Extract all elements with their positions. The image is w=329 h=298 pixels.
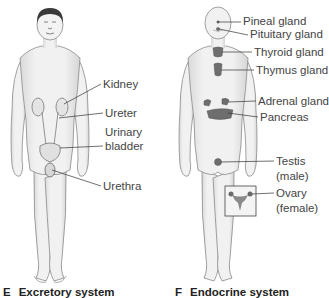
label-thymus-gland: Thymus gland [256, 64, 328, 77]
label-kidney: Kidney [103, 78, 138, 91]
label-pineal-gland: Pineal gland [243, 15, 306, 28]
caption-title: Excretory system [19, 286, 115, 298]
label-pancreas: Pancreas [260, 111, 309, 124]
caption-letter: F [175, 286, 182, 298]
label-ureter: Ureter [105, 107, 137, 120]
label-testis: Testis [276, 155, 305, 168]
label-ovary: Ovary [276, 187, 307, 200]
caption-endocrine: FEndocrine system [175, 286, 289, 298]
label-urethra: Urethra [103, 180, 141, 193]
label-male: (male) [276, 170, 309, 183]
caption-title: Endocrine system [190, 286, 289, 298]
label-female: (female) [276, 202, 318, 215]
label-thyroid-gland: Thyroid gland [254, 46, 324, 59]
label-pituitary-gland: Pituitary gland [250, 28, 323, 41]
caption-excretory: EExcretory system [3, 286, 115, 298]
label-urinary: Urinary [105, 126, 142, 139]
label-adrenal-gland: Adrenal gland [258, 95, 329, 108]
caption-letter: E [3, 286, 11, 298]
label-bladder: bladder [105, 140, 143, 153]
ovary-inset [225, 186, 256, 216]
